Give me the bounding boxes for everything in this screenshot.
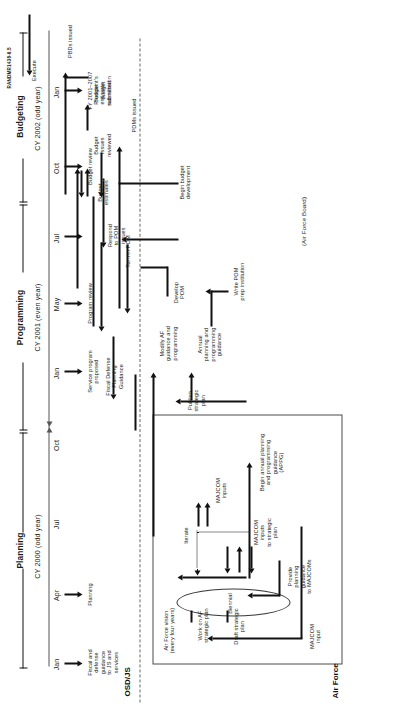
osd-service-program-arrow bbox=[110, 394, 116, 399]
af-label-draft-strategic-plan: Draft strategic plan bbox=[232, 600, 245, 652]
month-tick-7: Oct bbox=[53, 154, 59, 182]
af-label-work-on-af-strategic-plan: Work on AF strategic plan bbox=[196, 600, 209, 650]
lane-divider-dashed bbox=[139, 38, 140, 702]
osd-tick-line-1 bbox=[64, 594, 78, 596]
af-spine-arrow-up bbox=[177, 574, 182, 580]
year-label-cy2001: CY 2001 (even year) bbox=[34, 208, 40, 426]
af-flow-guidance-v bbox=[252, 594, 279, 596]
af-modify-guidance-line bbox=[152, 376, 154, 536]
af-majcom-inputs-arrow-2-line bbox=[197, 506, 199, 526]
af-write-pom-arrow bbox=[205, 288, 210, 294]
af-majcom-arrow-out-head bbox=[236, 546, 242, 551]
af-iterate-dotted-horizontal bbox=[196, 530, 197, 570]
osd-budget-estimate-line bbox=[86, 108, 88, 130]
lane-label-air-force: Air Force bbox=[330, 663, 339, 698]
osd-budget-review-arrow-2 bbox=[78, 192, 84, 197]
month-tick-5: May bbox=[53, 289, 59, 319]
af-label-iterate: Iterate bbox=[182, 518, 188, 552]
month-tick-1: Apr bbox=[53, 581, 59, 609]
osd-label-pdms-issued: PDMs issued bbox=[130, 88, 136, 142]
osd-label-respond-to-pom-issues: Respond to POM issues bbox=[106, 214, 125, 256]
rotated-figure-wrapper: RANDMR1438-6.5 Planning Programming Budg… bbox=[0, 0, 401, 708]
osd-event-service-program-proposed: Service program proposed bbox=[86, 342, 99, 400]
osd-label-budget-estimate-submitted: Budget estimate submitted bbox=[92, 72, 111, 114]
osd-program-review-line-1 bbox=[100, 242, 102, 326]
osd-pdms-vertical bbox=[118, 182, 178, 184]
phase-label-planning: Planning bbox=[16, 492, 22, 608]
af-flow-guidance-arrow bbox=[247, 592, 252, 598]
af-label-air-force-vision: Air Force vision (every four years) bbox=[162, 602, 175, 658]
af-write-pom-v bbox=[210, 290, 228, 292]
osd-execute-line bbox=[28, 14, 30, 70]
af-label-begin-budget-development: Begin budget development bbox=[178, 154, 191, 210]
lane-label-osd-js: OSD/JS bbox=[122, 667, 131, 696]
af-iterate-dotted-vertical bbox=[196, 531, 248, 532]
osd-event-fiscal-defense-guidance: Fiscal and defense guidance to JS and se… bbox=[86, 634, 118, 690]
timeline-arrow-left bbox=[46, 421, 52, 426]
af-connector-vision-to-work bbox=[190, 610, 192, 622]
osd-pbds-vertical bbox=[64, 76, 88, 78]
month-tick-4: Jan bbox=[53, 359, 59, 387]
af-develop-pom-v bbox=[140, 266, 167, 268]
af-majcom-arrow-in-1-head bbox=[224, 568, 230, 573]
osd-tick-line-0 bbox=[64, 663, 78, 665]
osd-budget-review-line-2 bbox=[80, 170, 82, 192]
af-write-pom-h bbox=[210, 290, 212, 326]
af-label-majcom-inputs-strategic: MAJCOM inputs to strategic plan bbox=[252, 506, 278, 558]
af-majcom-arrow-in-2-line bbox=[250, 546, 252, 568]
af-label-provide-planning-guidance: Provide planning guidance to MAJCOMs bbox=[286, 548, 312, 604]
month-tick-8: Jan bbox=[53, 78, 59, 106]
af-label-begin-appg: Begin annual planning and programming gu… bbox=[258, 424, 284, 500]
af-majcom-arrow-out-line bbox=[238, 550, 240, 572]
osd-respond-pom-line bbox=[126, 244, 128, 308]
osd-tick-arrow-7 bbox=[77, 88, 82, 94]
af-label-develop-pom: Develop POM bbox=[172, 272, 185, 312]
osd-event-planning: Planning bbox=[86, 574, 92, 614]
af-connector-work-to-draft bbox=[226, 610, 228, 622]
osd-budget-issues-arrow-long bbox=[74, 168, 80, 173]
year-label-cy2000: CY 2000 (odd year) bbox=[34, 428, 40, 664]
af-majcom-inputs-arrow-1-line bbox=[206, 506, 208, 526]
osd-respond-pom-vertical bbox=[126, 238, 178, 240]
af-annual-guidance-arrow bbox=[188, 372, 194, 377]
osd-tick-line-4 bbox=[64, 303, 78, 305]
af-majcom-arrow-in-1-line bbox=[226, 546, 228, 568]
month-tick-0: Jan bbox=[53, 650, 59, 678]
osd-respond-pom-arrow bbox=[124, 308, 130, 313]
osd-budget-issues-line-long bbox=[76, 172, 78, 288]
osd-budget-review-line-1 bbox=[100, 152, 102, 192]
osd-budget-estimate-arrow bbox=[84, 104, 90, 109]
figure-canvas: RANDMR1438-6.5 Planning Programming Budg… bbox=[0, 0, 401, 708]
osd-program-review-line-2 bbox=[92, 196, 94, 326]
osd-tick-arrow-1 bbox=[77, 592, 82, 598]
af-label-modify-af-guidance: Modify AF guidance and programming bbox=[158, 314, 177, 372]
af-label-air-force-board: (Air Force Board) bbox=[300, 188, 306, 254]
af-appg-arrow bbox=[246, 462, 252, 467]
month-tick-3: Oct bbox=[53, 431, 59, 459]
phase-label-budgeting: Budgeting bbox=[16, 64, 22, 168]
af-label-write-pom-prep: Write POM prep institution bbox=[232, 252, 245, 310]
osd-pdms-line bbox=[118, 150, 120, 308]
osd-pbds-line bbox=[64, 76, 66, 194]
af-flow-majcom-input-arrow bbox=[207, 635, 212, 641]
af-flow-guidance-h bbox=[278, 560, 280, 596]
osd-tick-line-7 bbox=[64, 90, 78, 92]
phase-label-programming: Programming bbox=[16, 256, 22, 378]
osd-tick-arrow-0 bbox=[77, 661, 82, 667]
rand-identifier: RANDMR1438-6.5 bbox=[6, 47, 11, 88]
osd-respond-pom-arrow-up bbox=[121, 236, 126, 242]
osd-budget-review-arrow-1 bbox=[98, 192, 104, 197]
osd-tick-arrow-3 bbox=[77, 369, 82, 375]
osd-event-program-review: Program review bbox=[86, 274, 92, 332]
af-flow-majcom-input-v bbox=[212, 637, 302, 639]
timeline-arrow-right bbox=[46, 427, 52, 432]
osd-tick-arrow-4 bbox=[77, 301, 82, 307]
af-iterate-arrow bbox=[194, 570, 200, 575]
af-develop-pom-h bbox=[166, 266, 168, 296]
osd-budget-issues-line-in bbox=[86, 172, 88, 196]
af-annual-guidance-line bbox=[190, 376, 192, 400]
af-label-majcom-inputs: MAJCOM inputs bbox=[214, 468, 227, 512]
osd-program-review-arrow-1 bbox=[98, 326, 104, 331]
osd-budget-issues-arrow-in bbox=[84, 168, 90, 173]
timeline-axis bbox=[48, 30, 49, 666]
